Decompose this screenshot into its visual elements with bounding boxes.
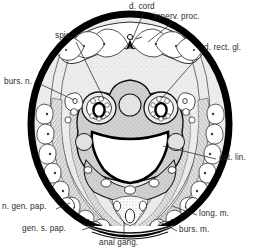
label-spic: spic. [55,31,72,40]
label-long-m: long. m. [199,209,229,218]
spicule-left [82,92,116,124]
label-burs-n: burs. n. [4,77,32,86]
spicule-right [144,92,178,124]
label-burs-m: burs. m. [179,225,209,234]
label-cut-lin: cut. lin. [219,153,246,162]
label-anal-gang: anal gang. [99,238,138,247]
anatomical-figure: d. cord innerv. proc. spic. d. rect. gl.… [0,0,260,252]
label-d-rect-gl: d. rect. gl. [204,43,241,52]
label-d-cord: d. cord [129,2,155,11]
label-innerv-proc: innerv. proc. [154,12,200,21]
central-mass [76,80,185,202]
label-gen-s-pap: gen. s. pap. [22,224,66,233]
label-n-gen-pap: n. gen. pap. [2,202,46,211]
